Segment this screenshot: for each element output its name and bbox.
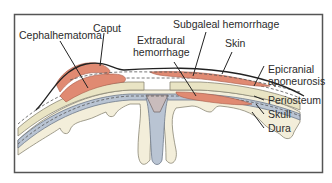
label-epicranial-1: Epicranial [268,63,314,75]
label-epicranial-2: aponeurosis [268,75,325,87]
scalp-layers-diagram: Cephalhematoma Caput Subgaleal hemorrhag… [0,0,332,183]
label-dura: Dura [268,122,291,134]
label-extradural-2: hemorrhage [133,46,190,58]
label-skin: Skin [225,37,246,49]
label-caput: Caput [93,22,121,34]
label-cephalhematoma: Cephalhematoma [19,29,102,41]
label-periosteum: Periosteum [268,94,321,106]
label-skull: Skull [268,108,291,120]
label-extradural-1: Extradural [137,34,185,46]
label-subgaleal: Subgaleal hemorrhage [173,18,279,30]
